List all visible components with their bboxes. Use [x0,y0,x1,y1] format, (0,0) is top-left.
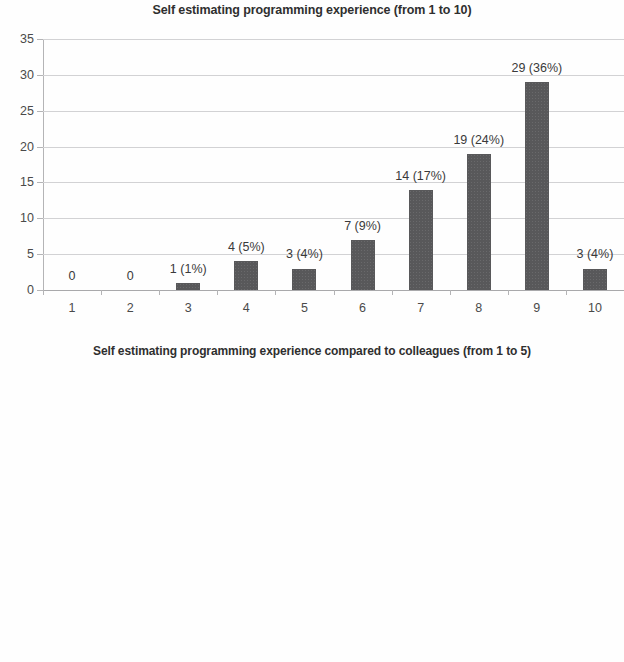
x-axis-tick [275,290,276,295]
x-axis-category-label: 7 [417,301,424,315]
bar [409,190,433,290]
y-axis-tick [37,75,43,76]
y-axis-tick-label: 30 [20,68,34,82]
x-axis-category-label: 3 [185,301,192,315]
x-axis-tick [334,290,335,295]
charts-page: Self estimating programming experience (… [0,0,624,662]
bar-value-label: 3 (4%) [577,247,614,261]
x-axis-category-label: 8 [475,301,482,315]
y-axis-tick [37,182,43,183]
y-axis-tick [37,218,43,219]
bar [176,283,200,290]
chart-title: Self estimating programming experience c… [0,344,624,358]
y-axis-tick-label: 15 [20,175,34,189]
x-axis-category-label: 10 [588,301,602,315]
x-axis-tick [392,290,393,295]
bar-value-label: 0 [127,269,134,283]
x-axis-tick [217,290,218,295]
bar [351,240,375,290]
bar-value-label: 19 (24%) [453,133,504,147]
bar [467,154,491,290]
y-axis-tick [37,147,43,148]
y-axis-line [43,39,44,290]
x-axis-category-label: 2 [127,301,134,315]
chart-programming-experience-1-to-10: Self estimating programming experience (… [0,0,624,330]
bar-value-label: 29 (36%) [511,61,562,75]
x-axis-tick [101,290,102,295]
x-axis-category-label: 9 [533,301,540,315]
x-axis-category-label: 6 [359,301,366,315]
y-axis-tick-label: 5 [27,247,34,261]
x-axis-tick [43,290,44,295]
y-axis-tick-label: 10 [20,211,34,225]
gridline [43,39,624,40]
bar-value-label: 14 (17%) [395,169,446,183]
x-axis-tick [566,290,567,295]
y-axis-tick-label: 25 [20,104,34,118]
x-axis-category-label: 1 [69,301,76,315]
y-axis-tick-label: 20 [20,140,34,154]
plot-area: 0510152025303501021 (1%)34 (5%)43 (4%)57… [43,39,624,290]
y-axis-tick [37,111,43,112]
bar-value-label: 3 (4%) [286,247,323,261]
bar [525,82,549,290]
y-axis-tick-label: 0 [27,283,34,297]
bar [583,269,607,291]
chart-programming-experience-vs-colleagues: Self estimating programming experience c… [0,330,624,662]
x-axis-tick [508,290,509,295]
chart-title: Self estimating programming experience (… [0,3,624,17]
bar-value-label: 1 (1%) [170,262,207,276]
x-axis-tick [450,290,451,295]
x-axis-tick [159,290,160,295]
bar-value-label: 0 [69,269,76,283]
x-axis-category-label: 4 [243,301,250,315]
bar-value-label: 7 (9%) [344,219,381,233]
bar [292,269,316,291]
y-axis-tick-label: 35 [20,32,34,46]
x-axis-category-label: 5 [301,301,308,315]
bar [234,261,258,290]
y-axis-tick [37,254,43,255]
bar-value-label: 4 (5%) [228,240,265,254]
y-axis-tick [37,39,43,40]
